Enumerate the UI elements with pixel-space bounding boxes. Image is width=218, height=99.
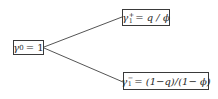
root-rhs: = 1 xyxy=(26,42,44,53)
down-symbol: γ xyxy=(121,76,127,87)
edge-root-to-down xyxy=(44,48,123,82)
tree-diagram: γ0 = 1 γ+1 = q / ϕ γ−1 = (1−q)/(1− ϕ) xyxy=(0,0,218,99)
down-scripts: −1 xyxy=(128,75,133,87)
up-rhs: = q / ϕ xyxy=(135,12,170,23)
up-scripts: +1 xyxy=(129,12,134,24)
down-node: γ−1 = (1−q)/(1− ϕ) xyxy=(123,72,209,90)
down-rhs: = (1−q)/(1− ϕ) xyxy=(134,76,210,87)
down-subscript: 1 xyxy=(128,81,133,87)
up-subscript: 1 xyxy=(129,18,134,24)
root-node: γ0 = 1 xyxy=(13,40,44,55)
up-node: γ+1 = q / ϕ xyxy=(122,9,170,26)
edge-root-to-up xyxy=(44,17,122,47)
up-symbol: γ xyxy=(122,12,128,23)
